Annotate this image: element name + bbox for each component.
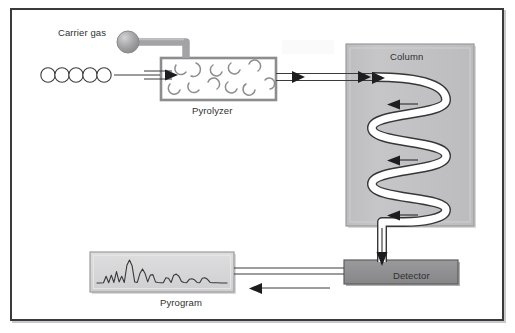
carrier-gas-line — [138, 39, 186, 58]
pyrolyzer-box — [161, 58, 276, 100]
carrier-gas-label: Carrier gas — [58, 27, 106, 38]
pyrogram-box — [90, 252, 236, 294]
faint-artifact — [282, 40, 334, 54]
pyrogram-label: Pyrogram — [160, 297, 202, 308]
carrier-gas-sphere — [117, 31, 139, 53]
sample-inlet-flow — [114, 70, 178, 81]
detector-label: Detector — [393, 270, 430, 281]
detector-to-pyrogram-flow — [234, 268, 344, 294]
diagram-page: Carrier gas Pyrolyzer Column Detector Py… — [0, 0, 515, 333]
diagram-graphics — [0, 0, 515, 333]
sample-polymer-chain — [41, 68, 111, 82]
pyrolyzer-label: Pyrolyzer — [192, 105, 233, 116]
column-label: Column — [390, 51, 423, 62]
